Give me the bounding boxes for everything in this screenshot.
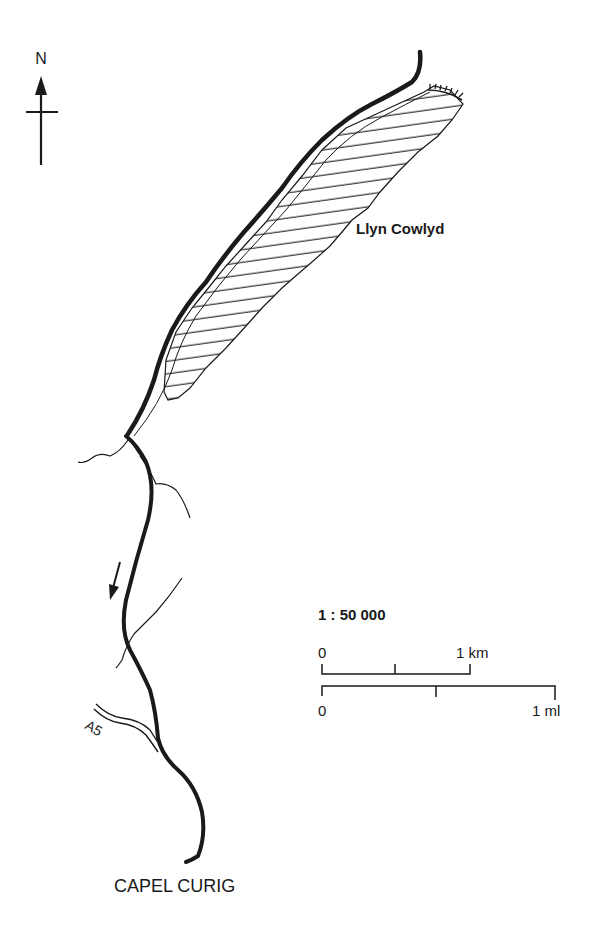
- river-main: [124, 436, 204, 862]
- lake-llyn-cowlyd: [150, 80, 480, 410]
- town-label: CAPEL CURIG: [114, 876, 235, 896]
- road-label: A5: [83, 717, 106, 740]
- north-label: N: [35, 50, 47, 67]
- scale-mi-end: 1 ml: [532, 702, 560, 719]
- map-canvas: N A5 Llyn C: [0, 0, 607, 941]
- streams: [78, 440, 190, 668]
- road-a5: [94, 704, 162, 752]
- scale-ratio: 1 : 50 000: [318, 606, 386, 623]
- north-arrow-icon: [26, 76, 58, 165]
- scale-km-start: 0: [318, 644, 326, 661]
- scale-km-end: 1 km: [456, 644, 489, 661]
- lake-label: Llyn Cowlyd: [356, 220, 444, 237]
- scale-mi-start: 0: [318, 702, 326, 719]
- flow-direction-arrow-icon: [109, 562, 120, 600]
- scale-bar: 1 : 50 000 0 1 km 0 1 ml: [318, 606, 560, 719]
